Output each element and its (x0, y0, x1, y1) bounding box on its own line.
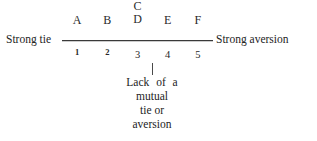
scale-point-label: E (164, 14, 171, 27)
scale-number-label: 5 (195, 49, 200, 60)
scale-point-letter-f: F (195, 14, 202, 27)
scale-point-number-2: 2 (105, 47, 109, 58)
caption-line: Lack of a (102, 75, 202, 89)
scale-number-label: 3 (135, 49, 140, 60)
caption-line: aversion (102, 117, 202, 131)
right-end-label: Strong aversion (216, 33, 289, 46)
scale-point-label: D (133, 13, 142, 26)
scale-point-number-5: 5 (195, 47, 200, 60)
scale-number-label: 4 (165, 49, 170, 60)
scale-number-label: 2 (105, 47, 109, 58)
scale-point-label: B (103, 14, 111, 27)
vertical-leader-line-icon (152, 63, 153, 75)
scale-diagram: Strong tie Strong aversion ABCDEF 12345 … (0, 0, 317, 141)
scale-point-number-3: 3 (135, 47, 140, 60)
scale-point-letter-d: CD (133, 14, 142, 26)
left-end-label: Strong tie (6, 33, 51, 46)
scale-point-letter-e: E (164, 14, 171, 27)
scale-point-label: A (73, 14, 82, 27)
scale-axis-line (62, 40, 213, 41)
scale-point-label: F (195, 14, 202, 27)
scale-point-number-4: 4 (165, 47, 170, 60)
scale-point-letter-b: B (103, 14, 111, 27)
caption-line: mutual (102, 89, 202, 103)
scale-point-number-1: 1 (75, 47, 79, 58)
scale-number-label: 1 (75, 47, 79, 58)
caption-block: Lack of amutualtie oraversion (102, 75, 202, 131)
scale-point-letter-a: A (73, 14, 82, 27)
caption-line: tie or (102, 103, 202, 117)
